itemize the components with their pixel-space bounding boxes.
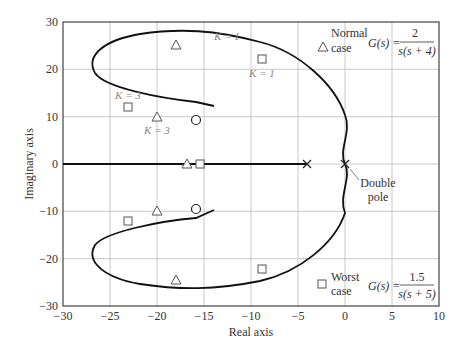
double-pole-label: Double	[360, 176, 395, 190]
svg-text:0: 0	[52, 157, 58, 171]
k-label: K = 3	[114, 89, 141, 101]
svg-text:−30: −30	[39, 299, 58, 313]
svg-text:20: 20	[46, 62, 58, 76]
k-label: K = 1	[248, 67, 275, 79]
tf-worst-num: 1.5	[410, 270, 425, 284]
svg-text:−5: −5	[292, 309, 305, 323]
tf-normal-den: s(s + 4)	[398, 44, 435, 58]
svg-text:−20: −20	[39, 252, 58, 266]
svg-text:10: 10	[46, 110, 58, 124]
x-tick-labels: −30 −25 −20 −15 −10 −5 0 5 10	[54, 309, 445, 323]
svg-text:5: 5	[389, 309, 395, 323]
x-axis-label: Real axis	[229, 325, 274, 339]
y-tick-labels: 30 20 10 0 −10 −20 −30	[39, 15, 58, 313]
triangle-legend-icon	[318, 42, 328, 51]
y-axis-label: Imaginary axis	[22, 128, 36, 200]
svg-text:−15: −15	[195, 309, 214, 323]
legend-normal-label: Normal	[331, 26, 368, 40]
svg-text:−25: −25	[101, 309, 120, 323]
tf-normal: G(s) =	[368, 36, 400, 50]
square-legend-icon	[318, 280, 326, 288]
k-label: K = 3	[143, 124, 170, 136]
svg-text:10: 10	[433, 309, 445, 323]
tf-worst: G(s) =	[368, 279, 400, 293]
svg-text:−10: −10	[39, 204, 58, 218]
k-label: K = 1	[213, 30, 240, 42]
legend-worst-label: Worst	[331, 270, 360, 284]
double-pole-label: pole	[368, 190, 389, 204]
svg-text:30: 30	[46, 15, 58, 29]
svg-text:0: 0	[342, 309, 348, 323]
double-pole-leader	[350, 169, 359, 180]
legend-worst-label: case	[331, 284, 352, 298]
triangle-marker-icon	[152, 40, 192, 284]
tf-normal-num: 2	[412, 26, 418, 40]
legend-normal-label: case	[331, 41, 352, 55]
root-locus-chart: −30 −25 −20 −15 −10 −5 0 5 10 30 20 10 0…	[0, 0, 465, 351]
svg-text:−10: −10	[242, 309, 261, 323]
svg-text:−20: −20	[148, 309, 167, 323]
tf-worst-den: s(s + 5)	[398, 287, 435, 301]
